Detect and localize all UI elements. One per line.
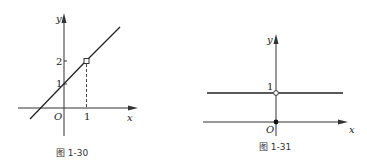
caption: 图 1-30 — [56, 148, 89, 158]
y-axis-label: y — [266, 34, 273, 45]
x-axis-arrow-icon — [338, 120, 348, 125]
tick-label-y-1: 1 — [56, 78, 62, 89]
figure-canvas: y x O 2 1 1 图 1-30 y x O 1 图 1-31 — [0, 0, 367, 167]
figure-1-31: y x O 1 图 1-31 — [203, 34, 355, 152]
tick-label-y-2: 2 — [56, 56, 62, 67]
caption: 图 1-31 — [259, 142, 291, 152]
tick-label-y-1: 1 — [267, 81, 273, 92]
origin-label: O — [54, 111, 62, 122]
graph-line — [89, 27, 121, 59]
x-axis-label: x — [349, 124, 355, 135]
y-axis-label: y — [55, 13, 62, 24]
open-point — [84, 59, 89, 64]
y-axis-arrow-icon — [274, 34, 279, 44]
origin-label: O — [266, 124, 274, 135]
x-axis-arrow-icon — [128, 106, 138, 111]
tick-label-x-1: 1 — [84, 111, 90, 122]
filled-point — [274, 120, 279, 125]
figure-1-30: y x O 2 1 1 图 1-30 — [18, 13, 138, 158]
y-axis-arrow-icon — [62, 13, 67, 23]
x-axis-label: x — [127, 112, 133, 123]
open-point — [274, 91, 279, 96]
